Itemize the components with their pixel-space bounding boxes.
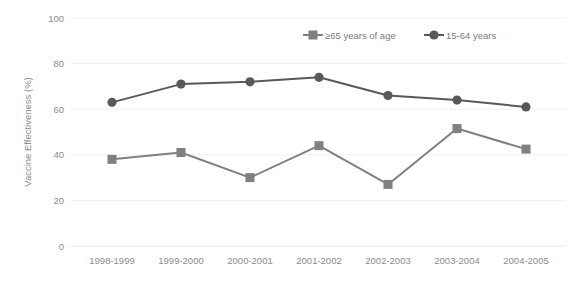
x-tick-label-1999-2000: 1999-2000 xyxy=(158,255,203,266)
data-point xyxy=(246,173,255,182)
y-tick-label-0: 0 xyxy=(59,241,64,252)
data-point xyxy=(245,77,254,86)
x-tick-label-2000-2001: 2000-2001 xyxy=(227,255,272,266)
x-tick-label-2002-2003: 2002-2003 xyxy=(365,255,410,266)
data-point xyxy=(452,95,461,104)
x-tick-label-1998-1999: 1998-1999 xyxy=(89,255,134,266)
chart-background xyxy=(0,0,575,285)
data-point xyxy=(384,180,393,189)
vaccine-effectiveness-line-chart: 100 80 60 40 20 0 Vaccine Effectiveness … xyxy=(0,0,575,285)
y-tick-label-20: 20 xyxy=(53,195,64,206)
y-tick-label-40: 40 xyxy=(53,149,64,160)
y-axis-title: Vaccine Effectiveness (%) xyxy=(22,77,33,186)
legend-label-15-64: 15-64 years xyxy=(446,30,496,41)
data-point xyxy=(107,98,116,107)
data-point xyxy=(315,141,324,150)
y-tick-label-60: 60 xyxy=(53,104,64,115)
x-tick-label-2001-2002: 2001-2002 xyxy=(296,255,341,266)
data-point xyxy=(521,102,530,111)
data-point xyxy=(453,124,462,133)
data-point xyxy=(522,145,531,154)
legend-marker-square-icon xyxy=(309,31,318,40)
y-tick-label-100: 100 xyxy=(48,13,64,24)
x-tick-label-2003-2004: 2003-2004 xyxy=(434,255,479,266)
data-point xyxy=(177,148,186,157)
data-point xyxy=(383,91,392,100)
legend-marker-circle-icon xyxy=(429,30,438,39)
y-tick-label-80: 80 xyxy=(53,58,64,69)
data-point xyxy=(314,73,323,82)
data-point xyxy=(108,155,117,164)
legend-label-65plus: ≥65 years of age xyxy=(325,30,396,41)
data-point xyxy=(176,80,185,89)
x-tick-label-2004-2005: 2004-2005 xyxy=(503,255,548,266)
chart-canvas: 100 80 60 40 20 0 Vaccine Effectiveness … xyxy=(0,0,575,285)
